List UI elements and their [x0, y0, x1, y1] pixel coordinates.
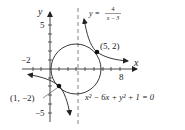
point-label-5-2: (5, 2)	[100, 41, 120, 51]
point-5-2	[95, 50, 100, 55]
circle-equation: x² − 6x + y² + 1 = 0	[84, 92, 155, 102]
x-tick-label-neg2: −2	[21, 55, 31, 65]
x-tick-label-8: 8	[119, 72, 124, 82]
hyperbola-equation-lhs: y =	[88, 9, 100, 18]
y-axis-label: y	[37, 6, 43, 17]
x-axis-label: x	[133, 57, 139, 68]
y-tick-label-5: 5	[40, 20, 45, 30]
graph-diagram: y x 5 −5 −2 8 y = 4 x − 3 (5, 2) (1, −2)…	[0, 0, 185, 130]
y-tick-label-neg5: −5	[35, 108, 45, 118]
point-1-neg2	[57, 84, 62, 89]
point-label-1-neg2: (1, −2)	[10, 93, 35, 103]
x-axis	[22, 67, 137, 71]
hyperbola-denominator: x − 3	[106, 15, 120, 21]
hyperbola-numerator: 4	[112, 6, 115, 12]
